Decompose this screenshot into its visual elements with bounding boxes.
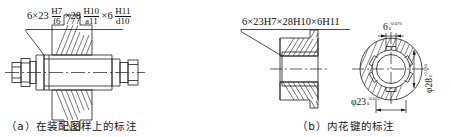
spline-tooth-3 (405, 72, 413, 83)
spline-tooth-2 (405, 56, 413, 67)
dimension-value: 23 (356, 97, 366, 107)
dimension-value: 6 (383, 22, 388, 32)
dimension-label-minor-diameter: φ 23 +0.021 0 (351, 97, 380, 107)
tolerance-pair: +0.084 0 (424, 64, 434, 77)
tolerance-pair: +0.021 0 (367, 97, 380, 107)
hub-ring-hatch (347, 28, 422, 108)
spline-dimensioning-figure: 6×23 H7 f6 ×28 H10 a11 ×6 H11 d10 (0, 0, 451, 137)
tolerance-pair: +0.076 0 (389, 22, 402, 32)
dimension-value: 28 (424, 78, 434, 88)
dimension-label-major-diameter: φ 28 +0.084 0 (424, 64, 434, 93)
caption-panel-b: （b）内花键的标注 (297, 118, 394, 133)
tolerance-lower: 0 (367, 102, 369, 107)
drawing-internal-spline (0, 0, 451, 137)
diameter-symbol: φ (424, 88, 434, 93)
tolerance-lower: 0 (389, 27, 391, 32)
tolerance-lower: 0 (429, 75, 434, 77)
dimension-label-spline-width: 6 +0.076 0 (383, 22, 402, 32)
leader-line-b (241, 30, 282, 57)
